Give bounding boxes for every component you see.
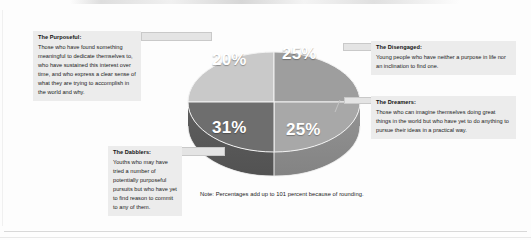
left-edge-rule [2, 10, 3, 226]
callout-dreamers-body: Those who can imagine themselves doing g… [376, 108, 511, 135]
pie-chart-svg [186, 14, 362, 196]
callout-dreamers: The Dreamers: Those who can imagine them… [371, 96, 516, 139]
callout-purposeful-body: Those who have found something meaningfu… [38, 43, 136, 97]
bottom-rule-secondary [0, 237, 531, 238]
callout-dreamers-title: The Dreamers: [376, 99, 511, 107]
callout-disengaged-title: The Disengaged: [376, 44, 511, 52]
pie-chart-figure: 20% 25% 25% 31% The Purposeful: Those wh… [0, 0, 531, 240]
cropped-header-remnant [70, 0, 460, 4]
pie-label-disengaged: 25% [282, 44, 317, 64]
chart-footnote: Note: Percentages add up to 101 percent … [200, 191, 364, 197]
leader-line-dabblers [181, 147, 225, 156]
callout-disengaged-body: Young people who have neither a purpose … [376, 53, 511, 71]
pie-label-dabblers: 31% [212, 118, 247, 138]
leader-line-purposeful [141, 32, 212, 41]
pie-chart: 20% 25% 25% 31% [186, 14, 362, 196]
callout-disengaged: The Disengaged: Young people who have ne… [371, 41, 516, 75]
bottom-rule [4, 231, 527, 232]
callout-purposeful: The Purposeful: Those who have found som… [33, 31, 141, 101]
leader-line-disengaged [343, 43, 373, 51]
callout-dabblers-body: Youths who may have tried a number of po… [113, 158, 177, 212]
callout-dabblers-title: The Dabblers: [113, 149, 177, 157]
pie-label-dreamers: 25% [286, 120, 321, 140]
pie-label-purposeful: 20% [212, 50, 247, 70]
callout-purposeful-title: The Purposeful: [38, 34, 136, 42]
callout-dabblers: The Dabblers: Youths who may have tried … [108, 146, 182, 216]
